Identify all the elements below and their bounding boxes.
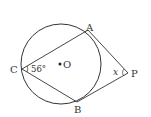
tangent-ap (88, 30, 128, 73)
tangent-bp (77, 73, 128, 102)
label-c: C (10, 64, 18, 75)
label-o: O (63, 59, 71, 70)
label-a: A (85, 22, 94, 33)
angle-arc-c (27, 66, 28, 72)
label-p: P (131, 68, 138, 79)
angle-label-c: 56° (31, 64, 46, 74)
label-b: B (74, 104, 81, 115)
center-dot (59, 63, 62, 66)
geometry-diagram: A B C O P 56° x (0, 0, 151, 117)
angle-label-p: x (113, 67, 118, 77)
